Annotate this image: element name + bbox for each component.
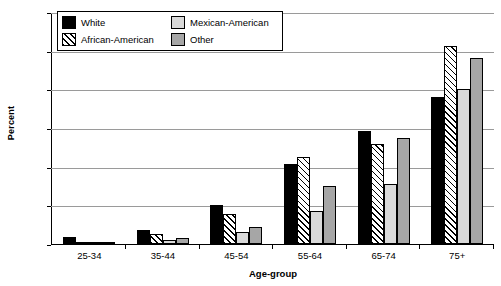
hatch-pattern-icon [445,47,456,242]
bar-45-54-mexican-american [236,232,249,244]
bar-25-34-mexican-american [89,242,102,244]
bar-65-74-white [358,131,371,243]
y-axis-title: Percent [2,0,20,245]
legend-label-african-american: African-American [81,34,154,45]
bar-55-64-white [284,164,297,243]
x-tick-label-75+: 75+ [420,250,494,261]
legend-swatch-mexican-american [171,16,185,29]
bar-35-44-mexican-american [163,240,176,243]
x-tick-label-45-54: 45-54 [200,250,274,261]
bar-35-44-african-american [150,234,163,244]
bar-75+-white [431,97,444,244]
legend-swatch-african-american [62,33,76,46]
hatch-pattern-icon [224,215,235,243]
y-tick-mark-10 [47,206,51,207]
x-tick-label-25-34: 25-34 [53,250,127,261]
legend-swatch-other [171,33,185,46]
bar-65-74-mexican-american [384,184,397,243]
legend-item-other: Other [171,32,278,48]
hatch-pattern-icon [151,235,162,243]
bar-group-65-74 [347,13,421,244]
x-axis-title: Age-group [52,268,494,279]
x-tick-label-55-64: 55-64 [273,250,347,261]
y-tick-mark-60 [47,13,51,14]
legend-swatch-white [62,16,76,29]
bar-75+-other [470,58,483,244]
x-axis-labels: 25-3435-4445-5455-6465-7475+ [53,250,495,261]
bar-55-64-african-american [297,157,310,243]
bar-55-64-mexican-american [310,211,323,244]
bar-35-44-other [176,238,189,243]
hatch-pattern-icon [63,34,75,45]
bar-65-74-other [397,138,410,243]
bar-45-54-other [249,227,262,244]
hatch-pattern-icon [298,158,309,242]
bar-group-55-64 [273,13,347,244]
bar-45-54-african-american [223,214,236,244]
bar-75+-mexican-american [457,89,470,244]
y-tick-mark-40 [47,90,51,91]
bar-25-34-white [63,237,76,244]
y-axis-title-text: Percent [6,105,16,139]
x-tick-label-35-44: 35-44 [126,250,200,261]
bar-65-74-african-american [371,144,384,243]
legend-item-mexican-american: Mexican-American [171,15,278,31]
bar-45-54-white [210,205,223,244]
bar-group-75+ [420,13,494,244]
y-tick-mark-20 [47,168,51,169]
bar-25-34-other [102,242,115,244]
y-tick-mark-50 [47,52,51,53]
x-tick-label-65-74: 65-74 [347,250,421,261]
legend: White Mexican-American African-American … [57,11,283,51]
legend-item-african-american: African-American [62,32,169,48]
legend-label-other: Other [190,34,214,45]
hatch-pattern-icon [372,145,383,242]
bar-chart: Percent 0102030405060 25-3435-4445-5455-… [0,0,501,286]
legend-label-mexican-american: Mexican-American [190,17,269,28]
legend-item-white: White [62,15,169,31]
legend-label-white: White [81,17,105,28]
bar-35-44-white [137,230,150,243]
y-tick-mark-30 [47,129,51,130]
bar-55-64-other [323,186,336,243]
bar-25-34-african-american [76,242,89,244]
bar-75+-african-american [444,46,457,243]
y-tick-mark-0 [47,245,51,246]
